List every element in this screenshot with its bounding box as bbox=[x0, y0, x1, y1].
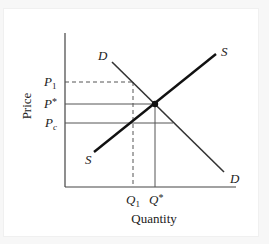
supply-label-bottom: S bbox=[85, 152, 92, 167]
demand-label-top: D bbox=[97, 48, 108, 63]
y-axis-title: Price bbox=[19, 92, 34, 119]
supply-label-top: S bbox=[221, 44, 228, 59]
supply-demand-diagram: D D S S P1 P* Pc Q1 Q* Quantity Price bbox=[0, 0, 269, 244]
demand-label-bottom: D bbox=[229, 171, 240, 186]
pstar-label: P* bbox=[43, 96, 57, 111]
pc-label: Pc bbox=[44, 115, 57, 132]
x-axis-title: Quantity bbox=[131, 211, 177, 226]
demand-curve bbox=[112, 62, 224, 172]
q1-label: Q1 bbox=[126, 192, 140, 209]
qstar-label: Q* bbox=[149, 192, 163, 207]
equilibrium-point bbox=[152, 101, 158, 107]
p1-label: P1 bbox=[43, 74, 56, 91]
